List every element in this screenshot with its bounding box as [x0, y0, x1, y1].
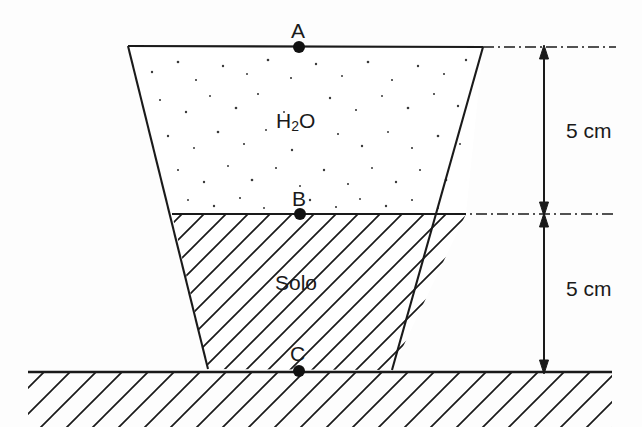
arrowhead-up-lower [540, 213, 549, 227]
water-label-subscript: 2 [291, 118, 299, 134]
dimension-label-upper: 5 cm [566, 120, 612, 141]
water-region-label: H2O [276, 110, 315, 133]
container-diagram [0, 0, 642, 427]
point-label-c: C [290, 343, 306, 364]
diagram-canvas: A B C H2O Solo 5 cm 5 cm [0, 0, 642, 427]
ground-hatching [28, 372, 612, 427]
dimension-lines [540, 45, 549, 374]
water-label-h: H [276, 109, 291, 132]
point-marker-c [293, 365, 305, 377]
point-label-a: A [291, 20, 306, 41]
water-label-o: O [299, 109, 315, 132]
point-marker-a [293, 41, 305, 53]
soil-region-label: Solo [275, 272, 317, 293]
point-label-b: B [292, 188, 307, 209]
dimension-label-lower: 5 cm [566, 278, 612, 299]
